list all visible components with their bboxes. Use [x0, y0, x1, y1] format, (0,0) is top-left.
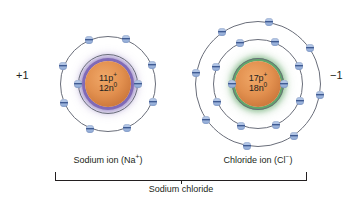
sodium-shell-2: [60, 36, 156, 132]
sodium-electron: [85, 36, 93, 44]
sodium-charge-label: +1: [16, 69, 29, 81]
compound-bracket: [55, 172, 307, 181]
compound-caption: Sodium chloride: [55, 184, 307, 194]
sodium-electron: [123, 124, 131, 132]
sodium-electron: [148, 61, 156, 69]
chloride-electron: [290, 132, 298, 140]
chloride-shell-3: [195, 21, 321, 147]
chloride-ion-atom: 17p+ 18n0: [188, 17, 328, 151]
sodium-ion-label: Sodium ion (Na+): [38, 155, 178, 165]
chloride-ion-label: Chloride ion (Cl−): [188, 155, 328, 165]
chloride-electron: [192, 69, 200, 77]
sodium-electron: [60, 99, 68, 107]
chloride-electron: [265, 18, 273, 26]
chloride-charge-label: −1: [330, 69, 343, 81]
sodium-electron: [86, 125, 94, 133]
sodium-chloride-diagram: 11p+ 12n0 17p+ 18n0 +1 −1 Sodium ion (Na…: [0, 0, 362, 204]
chloride-electron: [316, 91, 324, 99]
chloride-electron: [306, 44, 314, 52]
sodium-ion-atom: 11p+ 12n0: [38, 17, 178, 151]
chloride-electron: [243, 142, 251, 150]
sodium-electron: [149, 98, 157, 106]
